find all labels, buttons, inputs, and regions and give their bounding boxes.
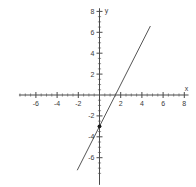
x-tick-label: 4	[140, 100, 144, 107]
plot-area: -6-4-22468 2468-2-4-6 x y	[0, 0, 196, 187]
plotted-points	[98, 124, 102, 128]
x-tick-label: -4	[54, 100, 60, 107]
y-tick-label: -2	[88, 112, 94, 119]
x-tick-label: -6	[33, 100, 39, 107]
y-tick-label: 8	[91, 8, 95, 15]
x-axis-label: x	[185, 85, 189, 92]
y-tick-label: 6	[91, 29, 95, 36]
x-tick-label: 6	[161, 100, 165, 107]
y-tick-label: -4	[88, 133, 94, 140]
chart-background	[0, 0, 196, 187]
x-tick-label: 2	[119, 100, 123, 107]
y-tick-label: 2	[91, 71, 95, 78]
y-tick-label: -6	[88, 154, 94, 161]
data-point-marker	[98, 124, 102, 128]
x-tick-label: 8	[182, 100, 186, 107]
y-axis-label: y	[105, 7, 109, 15]
y-tick-label: 4	[91, 50, 95, 57]
coordinate-plane-graph: -6-4-22468 2468-2-4-6 x y	[0, 0, 196, 187]
x-tick-label: -2	[75, 100, 81, 107]
